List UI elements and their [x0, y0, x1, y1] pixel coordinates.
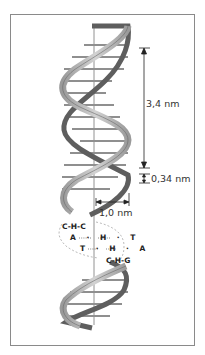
rise-label: 0,34 nm [151, 173, 190, 184]
width-label: 1,0 nm [99, 207, 132, 218]
base-pair-row-3: T · H · A [80, 244, 149, 253]
pitch-dimension-arrow [139, 48, 150, 183]
base-pair-row-2: A · H · T [70, 233, 139, 242]
backbone-strand-front [63, 26, 128, 212]
base-pair-row-1: C-H-C [62, 222, 86, 231]
pitch-label: 3,4 nm [146, 98, 179, 109]
base-pair-row-4: C-H-G [106, 256, 130, 265]
